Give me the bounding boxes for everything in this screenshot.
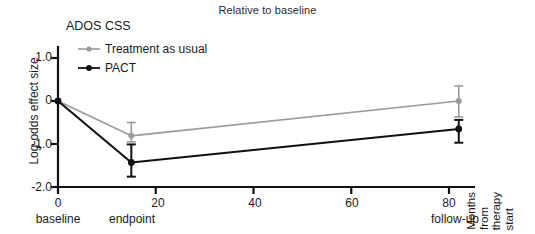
data-point[interactable]: [128, 159, 135, 166]
series-line: [58, 101, 459, 136]
series-pact: [55, 98, 464, 177]
data-point[interactable]: [455, 126, 462, 133]
series-treatment-as-usual: [55, 86, 463, 142]
figure-canvas: Relative to baseline ADOS CSS Log-odds e…: [0, 0, 535, 234]
data-point[interactable]: [128, 133, 134, 139]
data-point[interactable]: [456, 98, 462, 104]
series-line: [58, 101, 459, 162]
data-point[interactable]: [55, 98, 62, 105]
plot-area: [0, 0, 535, 234]
